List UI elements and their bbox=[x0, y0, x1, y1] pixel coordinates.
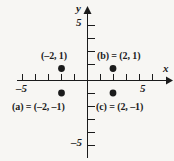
data-point-2-neg1 bbox=[110, 90, 117, 97]
y-tick-label-neg5: –5 bbox=[71, 137, 82, 148]
y-axis-ticks bbox=[88, 26, 95, 146]
label-point-c: (c) = (2, –1) bbox=[96, 102, 143, 112]
x-axis-label: x bbox=[163, 63, 169, 74]
data-point-neg2-neg1 bbox=[58, 90, 65, 97]
plot-canvas bbox=[0, 0, 174, 161]
y-axis-arrow-icon bbox=[84, 6, 92, 14]
data-point-2-1 bbox=[110, 65, 117, 72]
label-point-a: (a) = (–2, –1) bbox=[12, 102, 65, 112]
y-axis-label: y bbox=[76, 3, 81, 14]
label-point-neg2-1: (–2, 1) bbox=[41, 51, 67, 61]
coordinate-plane-figure: y x 5 –5 –5 5 (–2, 1) (b) = (2, 1) (a) =… bbox=[0, 0, 174, 161]
x-tick-label-5: 5 bbox=[140, 83, 146, 94]
label-point-b: (b) = (2, 1) bbox=[97, 51, 140, 61]
data-point-neg2-1 bbox=[58, 65, 65, 72]
x-tick-label-neg5: –5 bbox=[16, 83, 27, 94]
y-tick-label-5: 5 bbox=[76, 17, 82, 28]
x-axis-arrow-icon bbox=[166, 77, 173, 85]
